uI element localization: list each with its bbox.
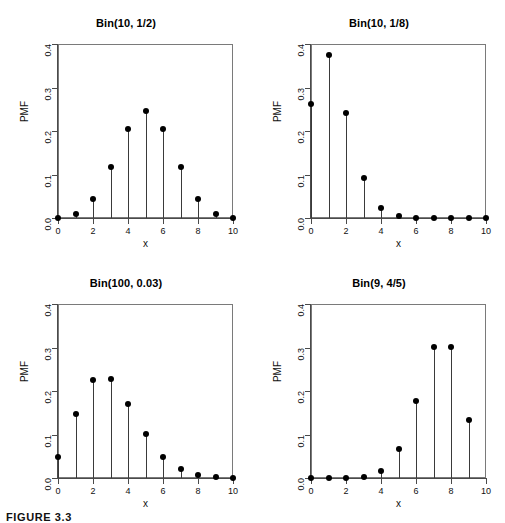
x-axis-tick — [128, 219, 129, 224]
y-axis-label: PMF — [272, 361, 283, 382]
stem-line — [163, 457, 164, 478]
y-axis-tick-label: 0.4 — [43, 304, 53, 334]
x-axis-tick — [451, 479, 452, 484]
x-axis-tick-label: 10 — [221, 486, 245, 496]
y-axis-tick-label: 0.4 — [296, 304, 306, 334]
y-axis-label: PMF — [19, 101, 30, 122]
data-point — [160, 454, 166, 460]
x-axis-tick — [198, 219, 199, 224]
data-point — [125, 126, 131, 132]
data-point — [431, 344, 437, 350]
y-axis-tick-label: 0.3 — [296, 88, 306, 118]
y-axis-line — [57, 304, 58, 479]
x-axis-tick-label: 8 — [186, 226, 210, 236]
x-axis-tick — [93, 219, 94, 224]
data-point — [378, 468, 384, 474]
data-point — [448, 215, 454, 221]
x-axis-tick-label: 4 — [369, 226, 393, 236]
stem-line — [128, 404, 129, 478]
stem-line — [111, 167, 112, 218]
data-point — [178, 164, 184, 170]
data-point — [483, 215, 489, 221]
y-axis-tick-label: 0.1 — [296, 175, 306, 205]
data-point — [413, 215, 419, 221]
stem-line — [181, 167, 182, 218]
data-point — [396, 446, 402, 452]
y-axis-tick-label: 0.3 — [296, 348, 306, 378]
data-point — [195, 472, 201, 478]
x-axis-tick-label: 6 — [404, 486, 428, 496]
data-point — [213, 474, 219, 480]
x-axis-tick-label: 4 — [116, 486, 140, 496]
x-axis-tick-label: 0 — [46, 486, 70, 496]
data-point — [230, 215, 236, 221]
x-axis-tick-label: 0 — [46, 226, 70, 236]
y-axis-line — [57, 44, 58, 219]
x-axis-tick — [311, 219, 312, 224]
y-axis-tick-label: 0.1 — [43, 175, 53, 205]
chart-title: Bin(9, 4/5) — [253, 276, 505, 290]
data-point — [73, 411, 79, 417]
y-axis-tick-label: 0.4 — [43, 44, 53, 74]
data-point — [361, 175, 367, 181]
x-axis-tick-label: 8 — [439, 226, 463, 236]
data-point — [213, 211, 219, 217]
data-point — [73, 211, 79, 217]
x-axis-tick-label: 2 — [81, 226, 105, 236]
x-axis-tick — [128, 479, 129, 484]
data-point — [466, 417, 472, 423]
y-axis-tick-label: 0.2 — [43, 391, 53, 421]
chart-title: Bin(10, 1/8) — [253, 16, 505, 30]
x-axis-label: x — [58, 238, 233, 249]
stem-line — [329, 55, 330, 218]
stem-line — [58, 457, 59, 478]
y-axis-tick-label: 0.2 — [296, 391, 306, 421]
x-axis-tick — [163, 479, 164, 484]
stem-line — [76, 414, 77, 478]
x-axis-tick-label: 10 — [221, 226, 245, 236]
x-axis-label: x — [311, 238, 486, 249]
stem-line — [416, 401, 417, 478]
x-axis-tick-label: 0 — [299, 226, 323, 236]
y-axis-tick-label: 0.4 — [296, 44, 306, 74]
y-axis-tick-label: 0.2 — [296, 131, 306, 161]
x-axis-tick-label: 8 — [186, 486, 210, 496]
x-axis-tick-label: 4 — [116, 226, 140, 236]
x-axis-label: x — [311, 498, 486, 509]
stem-line — [364, 178, 365, 218]
chart-panel-2: Bin(100, 0.03)0.00.10.20.30.40246810PMFx — [0, 260, 252, 518]
data-point — [160, 126, 166, 132]
y-axis-line — [310, 304, 311, 479]
stem-line — [434, 347, 435, 478]
data-point — [108, 164, 114, 170]
stem-line — [111, 379, 112, 478]
chart-panel-3: Bin(9, 4/5)0.00.10.20.30.40246810PMFx — [253, 260, 505, 518]
x-axis-tick — [486, 479, 487, 484]
stem-line — [163, 129, 164, 218]
data-point — [326, 52, 332, 58]
data-point — [178, 466, 184, 472]
data-point — [343, 475, 349, 481]
x-axis-tick-label: 2 — [81, 486, 105, 496]
data-point — [326, 475, 332, 481]
chart-panel-0: Bin(10, 1/2)0.00.10.20.30.40246810PMFx — [0, 0, 252, 258]
x-axis-tick — [381, 479, 382, 484]
stem-line — [451, 347, 452, 478]
x-axis-tick-label: 4 — [369, 486, 393, 496]
data-point — [431, 215, 437, 221]
stem-line — [128, 129, 129, 218]
data-point — [361, 474, 367, 480]
stem-line — [146, 434, 147, 478]
stem-line — [346, 113, 347, 218]
data-point — [230, 475, 236, 481]
y-axis-label: PMF — [272, 101, 283, 122]
data-point — [466, 215, 472, 221]
data-point — [308, 475, 314, 481]
data-point — [308, 101, 314, 107]
data-point — [448, 344, 454, 350]
x-axis-tick-label: 6 — [151, 486, 175, 496]
x-axis-tick — [58, 479, 59, 484]
stem-line — [311, 104, 312, 218]
data-point — [55, 215, 61, 221]
x-axis-tick-label: 8 — [439, 486, 463, 496]
